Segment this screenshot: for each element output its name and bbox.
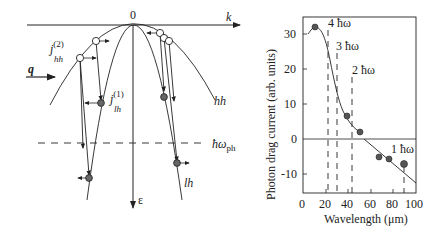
svg-text:-10: -10 xyxy=(281,167,297,181)
transition-arrow xyxy=(96,41,101,100)
svg-text:60: 60 xyxy=(364,197,376,211)
origin-label: 0 xyxy=(130,8,136,22)
j-lh1-sub: lh xyxy=(114,104,122,114)
hole-final-state xyxy=(98,100,105,107)
k-axis-label: k xyxy=(226,10,232,24)
phonon-energy-label: ħωph xyxy=(212,137,236,153)
band-diagram: 0 k ε hh lh ħωph q j(2) hh j(1) lh xyxy=(26,8,240,208)
svg-text:20: 20 xyxy=(319,197,331,211)
y-axis-label: Photon drag current (arb. units) xyxy=(264,49,278,200)
hh-band-label: hh xyxy=(214,94,226,108)
energy-axis-label: ε xyxy=(138,193,143,207)
transition-arrow xyxy=(80,58,89,175)
svg-text:80: 80 xyxy=(386,197,398,211)
hole-final-state xyxy=(86,175,93,182)
harmonic-label-4: 4 ħω xyxy=(328,16,351,30)
harmonic-label-3: 3 ħω xyxy=(336,39,359,53)
harmonic-label-2: 2 ħω xyxy=(352,63,375,77)
hole-final-state xyxy=(174,160,181,167)
svg-text:10: 10 xyxy=(284,97,296,111)
svg-text:100: 100 xyxy=(405,197,423,211)
hole-initial-state xyxy=(76,54,83,61)
hole-initial-state xyxy=(92,37,99,44)
q-label: q xyxy=(28,62,34,76)
svg-text:0: 0 xyxy=(299,197,305,211)
svg-text:40: 40 xyxy=(341,197,353,211)
svg-text:0: 0 xyxy=(291,132,297,146)
lh-band-curve xyxy=(87,25,182,200)
plot-frame xyxy=(303,17,416,193)
svg-text:30: 30 xyxy=(284,27,296,41)
hole-initial-state xyxy=(165,37,172,44)
svg-text:20: 20 xyxy=(284,62,296,76)
figure-canvas: 0 k ε hh lh ħωph q j(2) hh j(1) lh xyxy=(0,0,444,235)
hole-final-state xyxy=(161,94,168,101)
transition-arrow xyxy=(80,58,83,148)
harmonic-label-1: 1 ħω xyxy=(391,142,414,156)
j-hh2-sub: hh xyxy=(54,54,64,64)
photon-drag-chart: 30 20 10 0 -10 0 20 40 60 80 100 Wavelen… xyxy=(264,16,423,226)
x-axis-label: Wavelength (μm) xyxy=(324,212,408,226)
lh-band-label: lh xyxy=(184,176,193,190)
harmonic-lines xyxy=(328,30,404,193)
